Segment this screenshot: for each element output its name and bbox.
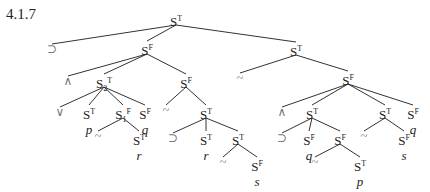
- tree-node: ST: [379, 105, 391, 121]
- tree-edge: [52, 25, 176, 44]
- truth-sign: F: [148, 43, 152, 52]
- tree-node: STp: [83, 105, 95, 137]
- tree-node: ST: [306, 105, 318, 121]
- truth-sign: F: [258, 159, 262, 168]
- atomic-variable: p: [83, 123, 95, 137]
- truth-sign: T: [313, 107, 318, 116]
- tree-node: STp: [354, 157, 366, 189]
- tree-node: SF: [180, 74, 192, 90]
- truth-sign: T: [207, 107, 212, 116]
- truth-sign: T: [361, 159, 366, 168]
- tree-edge: [296, 55, 348, 71]
- connective-symbol: ⊃: [277, 132, 287, 145]
- tree-edge: [348, 84, 413, 105]
- connective-symbol: ⊃: [47, 43, 57, 56]
- truth-sign: F: [405, 133, 409, 142]
- truth-sign: T: [177, 14, 182, 23]
- connective-symbol: ∧: [278, 106, 287, 119]
- truth-sign: F: [414, 107, 418, 116]
- connective-symbol: ∧: [64, 75, 73, 88]
- tree-node: SFs: [398, 131, 410, 163]
- atomic-variable: s: [251, 175, 263, 189]
- tree-node: SF: [141, 41, 153, 57]
- truth-sign: T: [386, 107, 391, 116]
- tree-node: ST: [200, 105, 212, 121]
- truth-sign: F: [146, 107, 150, 116]
- truth-sign: F: [349, 73, 353, 82]
- truth-sign: F: [341, 133, 345, 142]
- atomic-variable: p: [354, 175, 366, 189]
- tree-node: SF: [334, 131, 346, 147]
- tree-node: ST: [170, 12, 182, 28]
- tree-edge: [147, 54, 186, 74]
- node-subscript: 1: [122, 115, 126, 124]
- connective-symbol: ~: [361, 130, 368, 143]
- connective-symbol: ~: [95, 130, 102, 143]
- truth-sign: T: [107, 76, 112, 85]
- truth-sign: T: [239, 133, 244, 142]
- truth-sign: T: [90, 107, 95, 116]
- proof-tree-diagram: 4.1.7 ST⊃SFST∧S2TSF~SF∨STpS1FSFq~ST∧STST…: [0, 0, 430, 192]
- truth-sign: T: [297, 44, 302, 53]
- connective-symbol: ~: [237, 72, 244, 85]
- tree-edge: [176, 25, 296, 42]
- tree-node: S1F: [115, 105, 131, 126]
- connective-symbol: ~: [220, 156, 227, 169]
- atomic-variable: r: [200, 149, 212, 163]
- tree-node: SF: [342, 71, 354, 87]
- tree-node: STr: [200, 131, 212, 163]
- truth-sign: F: [187, 76, 191, 85]
- connective-symbol: ∨: [56, 106, 65, 119]
- tree-node: STr: [133, 131, 145, 163]
- truth-sign: T: [140, 133, 145, 142]
- connective-symbol: ~: [312, 156, 319, 169]
- truth-sign: T: [207, 133, 212, 142]
- tree-node: ST: [232, 131, 244, 147]
- atomic-variable: s: [398, 149, 410, 163]
- tree-node: SFs: [251, 157, 263, 189]
- tree-edge: [240, 55, 296, 73]
- connective-symbol: ~: [163, 104, 170, 117]
- connective-symbol: ⊃: [168, 132, 178, 145]
- tree-node: S2T: [96, 74, 112, 95]
- atomic-variable: r: [133, 149, 145, 163]
- truth-sign: F: [310, 133, 314, 142]
- truth-sign: F: [126, 107, 130, 116]
- node-subscript: 2: [103, 84, 107, 93]
- tree-node: ST: [290, 42, 302, 58]
